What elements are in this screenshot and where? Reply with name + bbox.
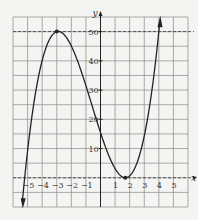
x-tick-label: −1 bbox=[81, 181, 93, 190]
x-tick-label: 4 bbox=[157, 181, 162, 190]
cubic-graph: yx−5−4−3−2−1123451020304050 bbox=[0, 0, 198, 220]
x-tick-label: 3 bbox=[142, 181, 147, 190]
x-axis-label: x bbox=[191, 173, 196, 183]
x-tick-label: −3 bbox=[52, 181, 64, 190]
y-tick-label: 40 bbox=[89, 57, 99, 66]
y-axis-arrow-icon bbox=[99, 11, 103, 16]
y-axis-label: y bbox=[92, 8, 99, 18]
x-tick-label: −2 bbox=[66, 181, 78, 190]
x-tick-label: 2 bbox=[128, 181, 133, 190]
x-tick-label: 1 bbox=[113, 181, 118, 190]
x-tick-label: −4 bbox=[37, 181, 49, 190]
critical-point-marker bbox=[123, 176, 127, 180]
y-tick-label: 50 bbox=[89, 28, 99, 37]
y-tick-label: 30 bbox=[89, 86, 99, 95]
critical-point-marker bbox=[55, 30, 59, 34]
x-tick-label: 5 bbox=[171, 181, 176, 190]
y-tick-label: 10 bbox=[89, 145, 99, 154]
function-curve bbox=[22, 24, 159, 200]
